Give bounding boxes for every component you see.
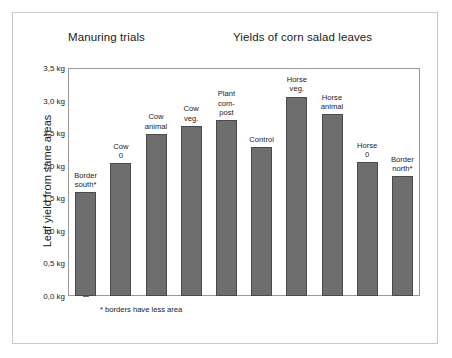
bar[interactable]: [110, 163, 131, 296]
bar[interactable]: [75, 192, 96, 296]
y-axis-tick-label: 1,0 kg: [23, 226, 65, 235]
bar-group[interactable]: Cowanimal: [139, 68, 174, 296]
bar-category-label: Bordernorth*: [378, 155, 427, 174]
chart-title-left: Manuring trials: [68, 31, 145, 43]
bar-category-label-line: Border: [378, 155, 427, 164]
bar-group[interactable]: Horse0: [350, 68, 385, 296]
bar[interactable]: [216, 120, 237, 296]
y-axis-tick-label: 0,0 kg: [23, 292, 65, 301]
bar-group[interactable]: Horseanimal: [315, 68, 350, 296]
bar[interactable]: [286, 97, 307, 296]
bar[interactable]: [251, 147, 272, 296]
y-axis-tick-labels: 0,0 kg0,5 kg1,0 kg1,5 kg2,0 kg2,5 kg3,0 …: [20, 0, 65, 358]
bar[interactable]: [357, 162, 378, 296]
bar-group[interactable]: Cow0: [103, 68, 138, 296]
y-axis-tick-label: 1,5 kg: [23, 194, 65, 203]
bar-series: Bordersouth*Cow0CowanimalCowveg.Plantcom…: [68, 68, 420, 296]
bar[interactable]: [322, 114, 343, 296]
bar-group[interactable]: Plantcom-post: [209, 68, 244, 296]
y-axis-tick-label: 2,0 kg: [23, 161, 65, 170]
bar-group[interactable]: Bordersouth*: [68, 68, 103, 296]
bar-category-label-line: north*: [378, 164, 427, 173]
bar[interactable]: [181, 126, 202, 296]
bar[interactable]: [146, 134, 167, 296]
bar[interactable]: [392, 176, 413, 296]
chart-page: Manuring trials Yields of corn salad lea…: [0, 0, 452, 358]
y-axis-major-tick: [83, 296, 89, 297]
chart-title-right: Yields of corn salad leaves: [233, 31, 372, 43]
chart-footnote: * borders have less area: [100, 305, 182, 314]
y-axis-tick-label: 3,0 kg: [23, 96, 65, 105]
y-axis-tick-label: 0,5 kg: [23, 259, 65, 268]
bar-group[interactable]: Bordernorth*: [385, 68, 420, 296]
y-axis-tick-label: 3,5 kg: [23, 64, 65, 73]
bar-group[interactable]: Control: [244, 68, 279, 296]
y-axis-tick-label: 2,5 kg: [23, 129, 65, 138]
